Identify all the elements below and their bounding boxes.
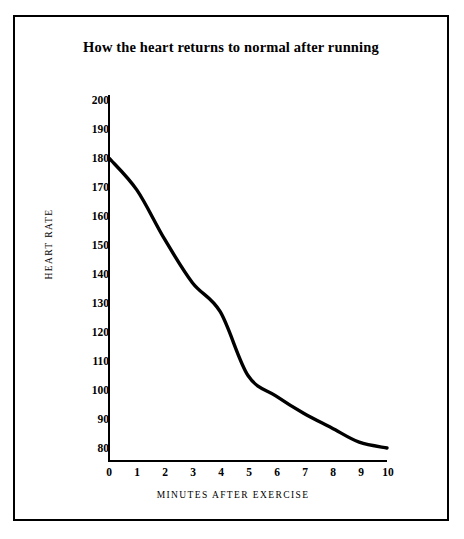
figure-frame: How the heart returns to normal after ru… [13,15,449,521]
heart-rate-line-path [109,158,387,448]
plot-area: 200 190 180 170 160 150 140 130 120 110 … [15,17,451,523]
heart-rate-curve [15,17,451,523]
